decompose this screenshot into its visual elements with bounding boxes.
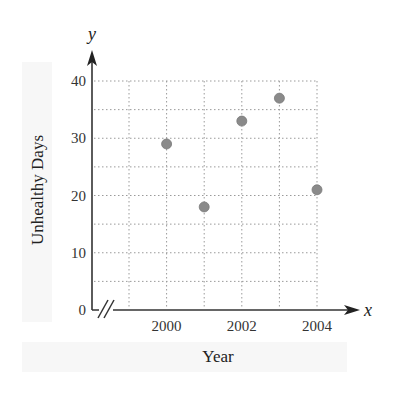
x-tick-label: 2000: [152, 318, 182, 334]
data-point: [199, 202, 209, 212]
data-point: [274, 93, 284, 103]
y-tick-label: 30: [71, 130, 86, 146]
y-tick-label: 10: [71, 245, 86, 261]
x-tick-label: 2004: [302, 318, 333, 334]
y-tick-label: 0: [79, 302, 87, 318]
y-tick-label: 20: [71, 188, 86, 204]
x-axis-label: Year: [202, 347, 234, 366]
y-tick-label: 40: [71, 73, 86, 89]
x-axis-variable: x: [363, 300, 372, 320]
y-axis-variable: y: [86, 24, 96, 44]
grid: [94, 81, 317, 308]
x-tick-label: 2002: [227, 318, 257, 334]
data-point: [237, 116, 247, 126]
axis-break-icon: [98, 300, 114, 318]
scatter-chart: 010203040 200020022004 y x Year Unhealth…: [0, 0, 394, 395]
data-point: [162, 139, 172, 149]
y-tick-labels: 010203040: [71, 73, 86, 318]
x-tick-labels: 200020022004: [152, 318, 333, 334]
axes: [87, 50, 360, 318]
data-point: [312, 185, 322, 195]
y-axis-label: Unhealthy Days: [28, 135, 47, 245]
